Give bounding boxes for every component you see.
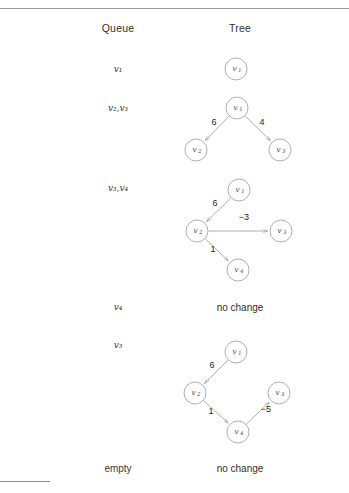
node-subscript-v4: 4 <box>239 430 243 436</box>
edge-weight-v1-v2: 6 <box>211 117 216 127</box>
node-label-v1: v <box>234 103 238 112</box>
edge-weight-v4-v3: −5 <box>261 404 271 414</box>
node-subscript-v4: 4 <box>239 268 243 274</box>
node-label-v2: v <box>193 145 197 154</box>
node-subscript-v2: 2 <box>197 148 201 154</box>
edge-v2-v4 <box>204 401 228 423</box>
node-subscript-v1: 1 <box>241 188 244 194</box>
edge-v2-v4 <box>205 239 228 261</box>
edge-weight-v1-v2: 6 <box>212 198 217 208</box>
edge-v1-v2 <box>207 198 231 222</box>
node-label-v4: v <box>235 265 239 274</box>
edge-weight-v2-v4: 1 <box>210 244 215 254</box>
node-subscript-v3: 3 <box>281 391 284 397</box>
footnote-rule <box>0 481 50 482</box>
node-subscript-v1: 1 <box>238 350 241 356</box>
edge-weight-v1-v3: 4 <box>259 117 264 127</box>
tree-graphs: v164v1v2v36−31v1v2v3v461−5v1v2v3v4 <box>0 0 349 493</box>
edge-weight-v1-v2: 6 <box>209 360 214 370</box>
node-label-v3: v <box>277 145 281 154</box>
figure-page: Queue Tree v₁ v₂,v₃ v₃,v₄ v₄ v₃ empty no… <box>0 0 349 493</box>
node-subscript-v2: 2 <box>198 229 202 235</box>
node-label-v3: v <box>276 388 280 397</box>
node-label-v4: v <box>235 427 239 436</box>
node-label-v3: v <box>278 226 282 235</box>
node-label-v2: v <box>194 226 198 235</box>
node-subscript-v3: 3 <box>282 148 285 154</box>
edge-v1-v3 <box>245 116 270 141</box>
node-subscript-v2: 2 <box>196 391 200 397</box>
node-subscript-v3: 3 <box>283 229 286 235</box>
edge-v1-v2 <box>205 116 229 140</box>
node-subscript-v1: 1 <box>239 106 242 112</box>
node-label-v1: v <box>233 347 237 356</box>
node-label-v2: v <box>192 388 196 397</box>
edge-v1-v2 <box>205 360 228 383</box>
node-label-v1: v <box>233 64 237 73</box>
node-label-v1: v <box>236 185 240 194</box>
edge-weight-v2-v4: 1 <box>208 406 213 416</box>
edge-weight-v2-v3: −3 <box>239 212 249 222</box>
node-subscript-v1: 1 <box>238 67 241 73</box>
